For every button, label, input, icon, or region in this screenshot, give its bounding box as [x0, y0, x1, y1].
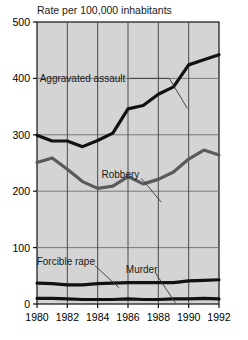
- y-tick-label: 0: [24, 298, 30, 310]
- y-axis-labels: 0100200300400500: [12, 16, 30, 310]
- series-line: [37, 298, 219, 299]
- series-annotation: Forcible rape: [37, 256, 96, 267]
- series-annotation: Murder: [126, 264, 158, 275]
- x-tick-label: 1992: [207, 311, 231, 323]
- y-tick-label: 400: [12, 72, 30, 84]
- x-axis-labels: 1980198219841986198819901992: [25, 311, 231, 323]
- x-tick-label: 1980: [25, 311, 49, 323]
- x-tick-label: 1986: [116, 311, 140, 323]
- y-tick-label: 500: [12, 16, 30, 28]
- y-tick-label: 300: [12, 129, 30, 141]
- violent-crime-chart: Violent Crime Rate per 100,000 inhabitan…: [0, 0, 248, 340]
- x-tick-label: 1984: [86, 311, 110, 323]
- y-tick-label: 200: [12, 185, 30, 197]
- series-annotation: Robbery: [102, 169, 140, 180]
- series-annotation: Aggravated assault: [40, 73, 126, 84]
- x-tick-label: 1982: [56, 311, 80, 323]
- chart-svg: 0100200300400500 19801982198419861988199…: [0, 0, 248, 340]
- x-tick-label: 1988: [147, 311, 171, 323]
- x-tick-label: 1990: [177, 311, 201, 323]
- y-tick-label: 100: [12, 242, 30, 254]
